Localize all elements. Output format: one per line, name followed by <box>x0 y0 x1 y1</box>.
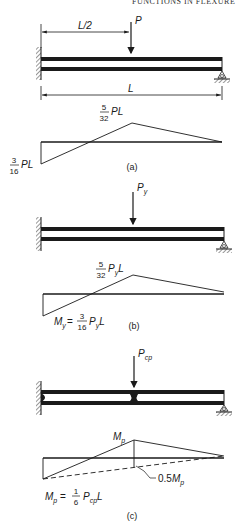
plastic-moment-label: Mp = 1 6 PcpL <box>45 487 103 507</box>
svg-text:5: 5 <box>99 260 104 269</box>
pin-support <box>214 71 230 83</box>
fixed-support-wall <box>36 47 41 80</box>
leader-line <box>136 466 156 478</box>
svg-text:5: 5 <box>102 103 107 112</box>
moment-curve <box>43 275 224 316</box>
plastic-hinge-midspan <box>129 393 139 402</box>
moment-diagram-c <box>43 440 224 479</box>
half-span-label: L/2 <box>78 20 92 31</box>
panel-a: L/2 P L 5 32 <box>10 15 230 176</box>
running-header: FUNCTIONS IN FLEXURE <box>132 0 235 6</box>
moment-diagram-b <box>43 275 224 316</box>
svg-text:PyL: PyL <box>108 263 124 277</box>
svg-text:Mp: Mp <box>45 491 57 505</box>
svg-text:=: = <box>67 316 73 327</box>
svg-text:1: 1 <box>74 487 79 496</box>
pin-support <box>216 241 232 253</box>
load-label: P <box>135 15 142 26</box>
panel-caption-b: (b) <box>129 321 140 331</box>
beam-diagram-figure: FUNCTIONS IN FLEXURE L/2 P L <box>0 0 248 529</box>
panel-c: Pcp Mp 0.5Mp <box>36 348 232 521</box>
beam-top-flange <box>41 57 222 61</box>
load-label: Py <box>137 182 148 196</box>
peak-moment-label: 5 32 PL <box>100 103 124 123</box>
panel-b: Py 5 32 PyL My <box>36 182 232 332</box>
svg-text:6: 6 <box>74 498 79 507</box>
moment-curve <box>41 123 222 164</box>
beam-top-flange <box>41 227 224 231</box>
moment-diagram-a <box>41 123 222 164</box>
fixed-end-moment-label: 3 16 PL <box>10 156 34 176</box>
panel-caption-a: (a) <box>127 162 138 172</box>
svg-text:3: 3 <box>80 312 85 321</box>
pin-support <box>216 405 232 416</box>
peak-moment-label: Mp <box>113 431 125 445</box>
svg-text:32: 32 <box>100 114 109 123</box>
svg-text:16: 16 <box>10 167 19 176</box>
panel-caption-c: (c) <box>127 511 138 521</box>
load-label: Pcp <box>138 348 152 362</box>
peak-moment-label: 5 32 PyL <box>96 260 124 280</box>
svg-text:3: 3 <box>12 156 17 165</box>
redistribution-label: 0.5Mp <box>158 473 184 487</box>
beam-bottom-flange <box>41 67 222 71</box>
svg-text:PL: PL <box>111 106 123 117</box>
fixed-support-wall <box>36 217 41 251</box>
svg-text:PL: PL <box>21 159 33 170</box>
plastic-hinge-fixed-end <box>41 393 45 402</box>
fixed-support-wall <box>36 381 41 415</box>
svg-text:=: = <box>60 491 66 502</box>
svg-text:My: My <box>54 316 66 330</box>
span-label: L <box>128 83 134 94</box>
svg-text:PcpL: PcpL <box>83 491 103 505</box>
svg-text:32: 32 <box>97 271 106 280</box>
beam-bottom-flange <box>41 237 224 241</box>
svg-text:16: 16 <box>78 323 87 332</box>
svg-text:PyL: PyL <box>89 316 105 330</box>
yield-moment-label: My = 3 16 PyL <box>54 312 105 332</box>
